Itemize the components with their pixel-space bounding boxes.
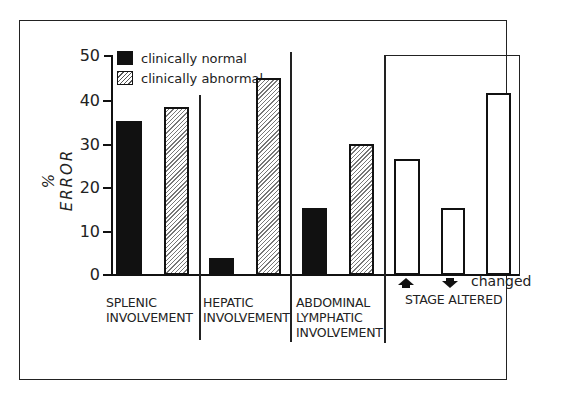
legend-swatch-solid [117,51,133,65]
bar-stage-down [441,208,465,275]
arrow-down-icon [442,281,458,288]
label-line: HEPATIC [203,295,290,310]
group-divider [290,52,292,342]
category-label-stage-altered: STAGE ALTERED [405,292,502,307]
y-tick-label: 0 [60,267,100,283]
category-label-splenic: SPLENIC INVOLVEMENT [106,295,193,325]
label-line: INVOLVEMENT [106,310,193,325]
bar-hepatic-abnormal [256,78,281,275]
group-divider [199,95,201,340]
y-tick-10 [103,231,112,233]
legend-item-normal: clinically normal [117,50,247,66]
y-axis [111,55,113,276]
category-label-hepatic: HEPATIC INVOLVEMENT [203,295,290,325]
y-tick-label: 50 [60,48,100,64]
label-line: ABDOMINAL [296,295,383,310]
y-tick-label: 40 [60,93,100,109]
y-tick-label: 10 [60,224,100,240]
y-tick-40 [103,100,112,102]
y-tick-30 [103,144,112,146]
label-line: INVOLVEMENT [296,325,383,340]
legend-label: clinically abnormal [141,71,263,86]
y-tick-0 [103,274,112,276]
legend-label: clinically normal [141,51,247,66]
arrow-up-icon [398,278,414,285]
bar-abdominal-abnormal [349,144,374,275]
y-tick-50 [104,55,113,57]
y-tick-20 [103,187,112,189]
arrow-up-icon-stem [402,285,410,288]
legend-item-abnormal: clinically abnormal [117,70,263,86]
label-line: LYMPHATIC [296,310,383,325]
bar-abdominal-normal [302,208,327,275]
bar-stage-up [394,159,420,275]
y-tick-label: 20 [60,180,100,196]
bar-splenic-normal [116,121,142,275]
label-line: INVOLVEMENT [203,310,290,325]
category-label-abdominal: ABDOMINAL LYMPHATIC INVOLVEMENT [296,295,383,340]
bar-splenic-abnormal [164,107,189,275]
label-line: SPLENIC [106,295,193,310]
label-changed: changed [471,273,531,289]
y-tick-label: 30 [60,137,100,153]
bar-hepatic-normal [209,258,234,275]
bar-stage-changed [486,93,511,275]
legend-swatch-hatched [117,71,133,85]
label-line: STAGE ALTERED [405,292,502,307]
